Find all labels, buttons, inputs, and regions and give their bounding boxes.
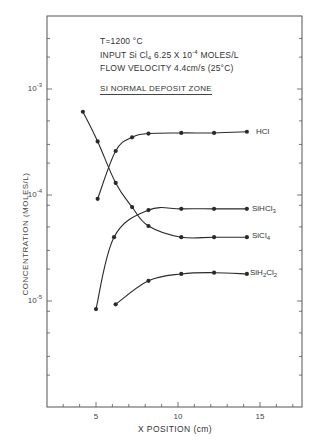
data-point-hcl xyxy=(212,131,216,135)
deposit-zone-label: SI NORMAL DEPOSIT ZONE xyxy=(100,84,212,95)
ytick-exp: -5 xyxy=(37,294,42,300)
data-point-sihcl3 xyxy=(112,235,116,239)
sih2cl2-text-b: Cl xyxy=(266,268,274,277)
input-text-a: INPUT Si Cl xyxy=(100,50,148,60)
sih2cl2-sub2: 2 xyxy=(274,272,277,278)
input-text-c: MOLES/L xyxy=(198,50,239,60)
series-label-sihcl3: SiHCl3 xyxy=(252,204,276,214)
data-point-sicl4 xyxy=(81,110,85,114)
series-line-sih2cl2 xyxy=(116,273,247,305)
series-line-sihcl3 xyxy=(96,208,247,309)
sihcl3-sub: 3 xyxy=(272,208,275,214)
xtick-label-15: 15 xyxy=(250,412,270,421)
data-point-sicl4 xyxy=(245,235,249,239)
data-point-sihcl3 xyxy=(179,207,183,211)
series-label-sih2cl2: SiH2Cl2 xyxy=(250,268,277,278)
y-axis-label: CONCENTRATION (MOLES/L) xyxy=(21,186,30,296)
data-point-sih2cl2 xyxy=(245,272,249,276)
data-point-hcl xyxy=(146,131,150,135)
data-point-sicl4 xyxy=(130,205,134,209)
data-point-sicl4 xyxy=(179,235,183,239)
data-point-sihcl3 xyxy=(245,207,249,211)
data-point-sicl4 xyxy=(114,181,118,185)
xtick-label-5: 5 xyxy=(86,412,106,421)
sicl4-sub: 4 xyxy=(267,235,270,241)
sihcl3-text: SiHCl xyxy=(252,204,272,213)
ytick-exp: -4 xyxy=(37,188,42,194)
series-label-hcl: HCl xyxy=(256,127,269,136)
xtick-label-10: 10 xyxy=(168,412,188,421)
data-point-sicl4 xyxy=(96,139,100,143)
data-point-hcl xyxy=(179,131,183,135)
data-point-sihcl3 xyxy=(94,307,98,311)
series-lines xyxy=(83,112,247,309)
data-point-sih2cl2 xyxy=(114,302,118,306)
series-label-sicl4: SiCl4 xyxy=(252,231,270,241)
x-axis-label: X POSITION (cm) xyxy=(138,424,212,434)
temperature-text: T=1200 °C xyxy=(100,36,239,47)
ytick-label-1e-5: 10-5 xyxy=(14,294,42,305)
data-point-hcl xyxy=(245,130,249,134)
data-point-sihcl3 xyxy=(212,207,216,211)
sicl4-text: SiCl xyxy=(252,231,267,240)
ytick-base: 10 xyxy=(28,84,37,93)
series-line-hcl xyxy=(98,132,247,199)
sih2cl2-text-a: SiH xyxy=(250,268,263,277)
ytick-label-1e-3: 10-3 xyxy=(14,82,42,93)
input-text-b: 6.25 X 10 xyxy=(151,50,192,60)
series-points xyxy=(81,110,249,311)
series-line-sicl4 xyxy=(83,112,247,238)
data-point-sih2cl2 xyxy=(179,272,183,276)
conditions-annotation: T=1200 °C INPUT Si Cl4 6.25 X 10-4 MOLES… xyxy=(100,36,239,74)
flow-velocity-text: FLOW VELOCITY 4.4cm/s (25°C) xyxy=(100,63,239,74)
data-point-hcl xyxy=(96,197,100,201)
ytick-base: 10 xyxy=(28,296,37,305)
data-point-hcl xyxy=(130,135,134,139)
data-point-sih2cl2 xyxy=(146,279,150,283)
data-point-sicl4 xyxy=(212,235,216,239)
data-point-sih2cl2 xyxy=(212,271,216,275)
data-point-sihcl3 xyxy=(146,208,150,212)
data-point-sicl4 xyxy=(146,224,150,228)
input-text: INPUT Si Cl4 6.25 X 10-4 MOLES/L xyxy=(100,47,239,64)
ytick-exp: -3 xyxy=(37,82,42,88)
data-point-hcl xyxy=(114,149,118,153)
